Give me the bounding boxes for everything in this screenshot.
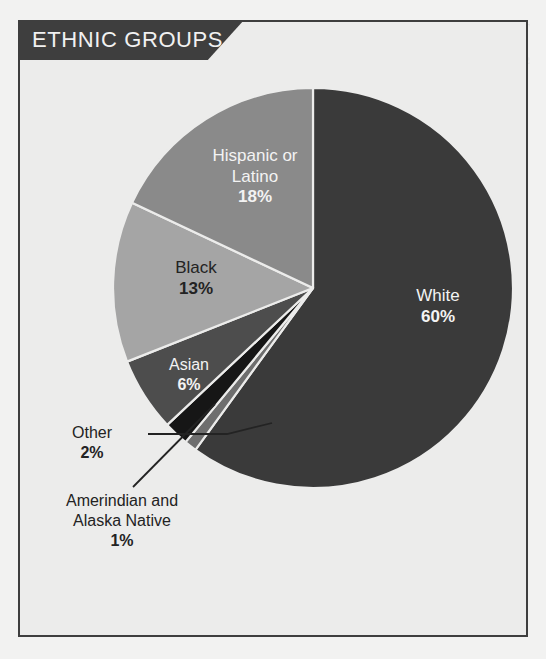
slice-name-white: White (358, 286, 518, 307)
slice-value-asian: 6% (139, 375, 239, 395)
callout-label-amerindian: Amerindian and Alaska Native 1% (24, 491, 220, 551)
callout-name-amerindian-2: Alaska Native (24, 511, 220, 531)
slice-label-white: White 60% (358, 286, 518, 327)
slice-name-black: Black (141, 258, 251, 279)
callout-name-amerindian-1: Amerindian and (24, 491, 220, 511)
callout-value-other: 2% (44, 443, 140, 463)
infographic-page: THE UNITED ancient range of the populati… (0, 0, 546, 659)
slice-value-black: 13% (141, 279, 251, 300)
slice-label-black: Black 13% (141, 258, 251, 299)
slice-name-hispanic-2: Latino (185, 167, 325, 188)
slice-value-white: 60% (358, 307, 518, 328)
slice-label-hispanic: Hispanic or Latino 18% (185, 146, 325, 208)
slice-name-hispanic-1: Hispanic or (185, 146, 325, 167)
title-banner: ETHNIC GROUPS (18, 20, 244, 60)
page-title: ETHNIC GROUPS (18, 27, 223, 53)
callout-value-amerindian: 1% (24, 531, 220, 551)
callout-label-other: Other 2% (44, 423, 140, 463)
callout-name-other: Other (44, 423, 140, 443)
slice-label-asian: Asian 6% (139, 355, 239, 394)
slice-name-asian: Asian (139, 355, 239, 375)
slice-value-hispanic: 18% (185, 187, 325, 208)
